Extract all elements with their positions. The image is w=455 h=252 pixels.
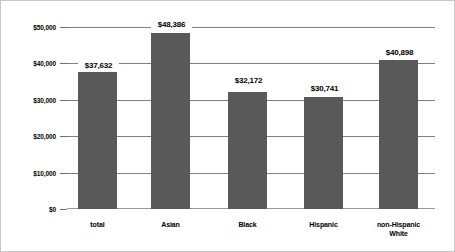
- tick-mark-0: [60, 209, 67, 210]
- tick-mark-2: [60, 136, 67, 137]
- y-tick-label-0: $0: [49, 206, 56, 213]
- bar-hispanic[interactable]: [304, 97, 343, 209]
- tick-mark-4: [60, 63, 67, 64]
- cat-label-black: Black: [217, 221, 278, 230]
- y-tick-label-4: $40,000: [33, 60, 56, 67]
- y-tick-label-3: $30,000: [33, 96, 56, 103]
- tick-mark-3: [60, 100, 67, 101]
- bar-total[interactable]: [78, 72, 117, 209]
- cat-label-non-hispanic-white: non-Hispanic White: [368, 221, 429, 239]
- tick-mark-5: [60, 27, 67, 28]
- gridline-50000: [67, 27, 435, 28]
- x-axis-category-labels: total Asian Black Hispanic non-Hispanic …: [67, 215, 435, 251]
- cat-label-hispanic: Hispanic: [293, 221, 354, 230]
- bar-black[interactable]: [228, 92, 267, 209]
- y-tick-label-2: $20,000: [33, 133, 56, 140]
- bar-asian[interactable]: [151, 33, 190, 209]
- plot-area: [67, 27, 435, 209]
- bar-chart-figure: $0 $10,000 $20,000 $30,000 $40,000 $50,0…: [0, 0, 455, 252]
- tick-mark-1: [60, 173, 67, 174]
- y-tick-label-1: $10,000: [33, 169, 56, 176]
- cat-label-total: total: [67, 221, 128, 230]
- cat-label-asian: Asian: [140, 221, 201, 230]
- y-tick-label-5: $50,000: [33, 24, 56, 31]
- y-axis-labels: $0 $10,000 $20,000 $30,000 $40,000 $50,0…: [1, 1, 56, 252]
- bar-non-hispanic-white[interactable]: [379, 60, 418, 209]
